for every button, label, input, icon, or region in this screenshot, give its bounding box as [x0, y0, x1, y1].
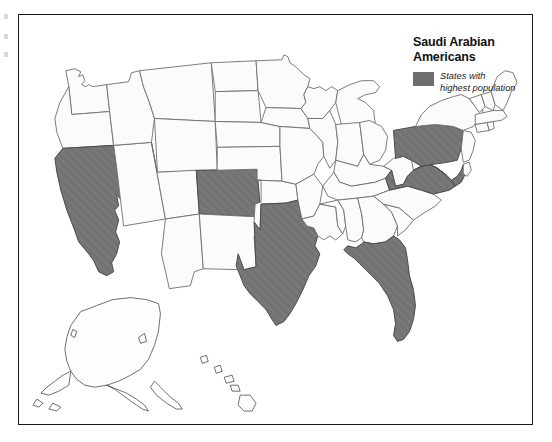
scan-artifact — [4, 14, 8, 19]
state-california[interactable] — [55, 145, 124, 275]
scan-artifact — [4, 52, 8, 57]
state-wisconsin[interactable] — [301, 87, 338, 119]
state-indiana[interactable] — [336, 122, 364, 166]
state-wyoming[interactable] — [154, 118, 217, 172]
state-nebraska[interactable] — [215, 121, 280, 147]
state-washington[interactable] — [66, 69, 110, 115]
state-colorado[interactable] — [196, 169, 261, 217]
inset-alaska[interactable] — [33, 298, 182, 411]
legend-swatch-highlighted — [413, 72, 434, 86]
state-north-dakota[interactable] — [211, 61, 258, 92]
legend-title: Saudi Arabian Americans — [413, 35, 552, 64]
state-florida[interactable] — [344, 236, 416, 341]
state-delaware[interactable] — [463, 162, 471, 176]
state-south-dakota[interactable] — [215, 91, 261, 123]
state-minnesota[interactable] — [256, 55, 310, 109]
state-new-jersey[interactable] — [461, 130, 475, 162]
legend-entry: States with highest population — [413, 71, 552, 94]
figure-page: Saudi Arabian Americans States with high… — [0, 0, 552, 442]
state-arizona[interactable] — [161, 214, 203, 289]
map-frame: Saudi Arabian Americans States with high… — [18, 14, 533, 425]
scan-artifact — [4, 34, 8, 39]
states-layer — [33, 55, 517, 411]
state-new-mexico[interactable] — [199, 214, 261, 270]
map-legend: Saudi Arabian Americans States with high… — [413, 35, 552, 94]
legend-swatch-label: States with highest population — [440, 71, 515, 94]
inset-hawaii[interactable] — [200, 355, 256, 411]
